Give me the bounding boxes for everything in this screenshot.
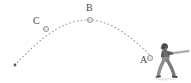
point-label-c: C — [33, 16, 40, 26]
point-label-b: B — [86, 3, 93, 13]
projectile-trajectory-figure: A B C — [0, 0, 191, 83]
ball-at-b — [87, 17, 92, 22]
ball-at-c — [43, 26, 48, 31]
baseball-batter-figure — [155, 43, 189, 80]
figure-canvas — [0, 0, 191, 83]
point-label-a: A — [140, 55, 147, 65]
path-end-dot — [14, 64, 17, 67]
projectile-path — [15, 20, 152, 65]
ball-at-a — [147, 55, 152, 60]
